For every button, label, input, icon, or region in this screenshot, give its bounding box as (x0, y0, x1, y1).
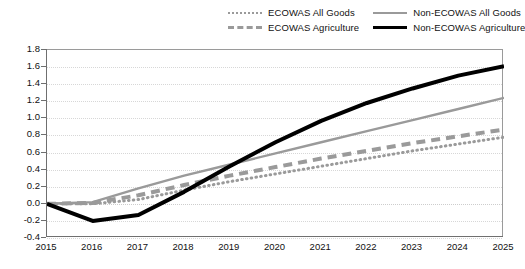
legend-label: Non-ECOWAS Agriculture (413, 22, 525, 33)
y-axis-tick (41, 237, 46, 238)
gridline (47, 238, 502, 239)
x-tick-label: 2015 (35, 241, 56, 252)
x-tick-label: 2018 (173, 241, 194, 252)
x-tick-label: 2017 (127, 241, 148, 252)
plot-area (46, 49, 503, 237)
y-axis (46, 49, 47, 237)
y-axis-tick (41, 83, 46, 84)
y-axis-tick (41, 134, 46, 135)
y-axis-tick (41, 66, 46, 67)
y-axis-tick (41, 169, 46, 170)
y-axis-tick (41, 100, 46, 101)
series-line (47, 66, 504, 221)
y-tick-label: -0.2 (6, 214, 40, 225)
series-line (47, 137, 504, 204)
legend-label: ECOWAS Agriculture (268, 22, 359, 33)
y-tick-label: 1.0 (6, 111, 40, 122)
legend-item-ecowas-agriculture[interactable]: ECOWAS Agriculture (228, 22, 359, 33)
y-axis-tick-labels: -0.4-0.20.00.20.40.60.81.01.21.41.61.8 (0, 0, 40, 269)
x-axis (46, 236, 503, 237)
dashed-gray-line-icon (228, 26, 262, 29)
y-axis-tick (41, 49, 46, 50)
x-tick-label: 2022 (355, 241, 376, 252)
dotted-gray-line-icon (228, 12, 262, 14)
y-axis-tick (41, 117, 46, 118)
y-tick-label: 0.2 (6, 180, 40, 191)
y-tick-label: 1.6 (6, 60, 40, 71)
legend-item-ecowas-all-goods[interactable]: ECOWAS All Goods (228, 7, 359, 18)
y-axis-tick (41, 186, 46, 187)
series-line (47, 98, 504, 204)
x-tick-label: 2016 (81, 241, 102, 252)
y-axis-tick (41, 220, 46, 221)
y-axis-tick (41, 203, 46, 204)
y-axis-tick (41, 152, 46, 153)
legend-label: Non-ECOWAS All Goods (413, 7, 521, 18)
x-tick-label: 2023 (401, 241, 422, 252)
legend-item-non-ecowas-all-goods[interactable]: Non-ECOWAS All Goods (373, 7, 525, 18)
x-tick-label: 2020 (264, 241, 285, 252)
x-tick-label: 2021 (310, 241, 331, 252)
y-tick-label: 1.2 (6, 94, 40, 105)
solid-black-line-icon (373, 26, 407, 29)
x-tick-label: 2024 (447, 241, 468, 252)
y-tick-label: 0.6 (6, 146, 40, 157)
chart-legend: ECOWAS All Goods Non-ECOWAS All Goods EC… (228, 7, 506, 33)
x-tick-label: 2025 (492, 241, 513, 252)
y-tick-label: 1.4 (6, 77, 40, 88)
x-axis-tick-labels: 2015201620172018201920202021202220232024… (46, 241, 503, 257)
y-tick-label: 0.0 (6, 197, 40, 208)
x-tick-label: 2019 (218, 241, 239, 252)
y-tick-label: 1.8 (6, 43, 40, 54)
y-tick-label: 0.8 (6, 128, 40, 139)
legend-label: ECOWAS All Goods (268, 7, 355, 18)
solid-gray-line-icon (373, 12, 407, 14)
legend-item-non-ecowas-agriculture[interactable]: Non-ECOWAS Agriculture (373, 22, 525, 33)
series-lines (47, 50, 504, 238)
y-tick-label: 0.4 (6, 163, 40, 174)
